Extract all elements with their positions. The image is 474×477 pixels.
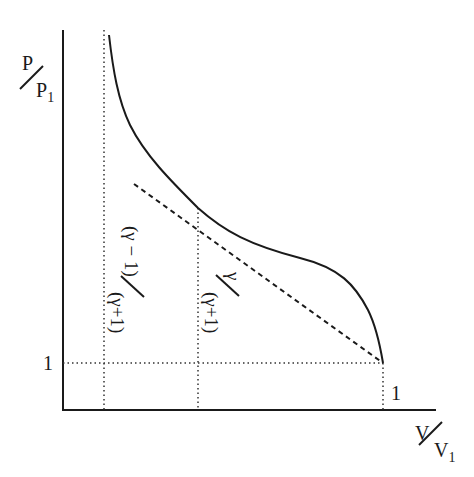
- tangent-line: [134, 184, 383, 363]
- x-label-denominator: V1: [434, 440, 455, 465]
- y-label-denominator: P1: [36, 80, 54, 105]
- x-den-text: V: [434, 439, 448, 461]
- y-den-sub: 1: [47, 90, 54, 105]
- asym-label-denominator: (γ+1): [108, 292, 127, 333]
- x-label-numerator: V: [415, 423, 429, 443]
- y-label-numerator: P: [22, 53, 33, 73]
- y-tick-1: 1: [43, 353, 53, 373]
- asym-label-numerator: (γ − 1): [122, 226, 141, 277]
- tan-label-numerator: γ: [224, 272, 243, 280]
- x-tick-1: 1: [391, 383, 401, 403]
- diagram-canvas: [0, 0, 474, 477]
- curve: [109, 35, 383, 363]
- x-den-sub: 1: [448, 450, 455, 465]
- y-den-text: P: [36, 79, 47, 101]
- tan-label-denominator: (γ+1): [202, 292, 221, 333]
